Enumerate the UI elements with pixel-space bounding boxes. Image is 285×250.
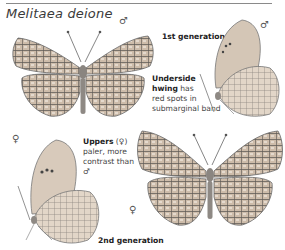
male-symbol: ♂ [119,16,128,26]
uppers-note: Uppers (♀) paler, more contrast than ♂ [83,137,134,177]
uppers-note-symbol: (♀) [113,137,127,146]
species-title: Melitaea deione [6,6,113,21]
header-rule [6,3,272,4]
uppers-note-line4: ♂ [83,167,134,177]
uppers-note-bold: Uppers [83,137,113,146]
second-generation-label: 2nd generation [98,236,164,246]
uppers-note-line2: paler, more [83,147,134,157]
underside-note-line2-bold: hwing [152,84,178,93]
male-underside-illustration [198,18,284,120]
female-upperside-illustration [136,127,284,229]
male-upperside-illustration [8,26,158,124]
underside-note-line1: Underside [152,74,196,83]
uppers-note-line3: contrast than [83,157,134,167]
underside-note-line2-rest: has [178,84,194,93]
